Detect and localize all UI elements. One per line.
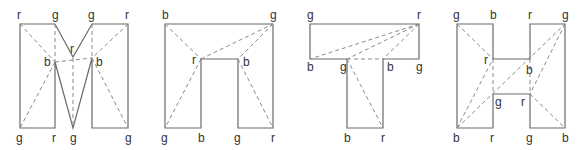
diagram-canvas: rggrrbbgrggbgrbgbgrgrbgbgbrgbrgrbgrbrgb bbox=[0, 0, 585, 150]
vertex-color-label: r bbox=[417, 8, 421, 22]
vertex-color-label: g bbox=[495, 95, 502, 109]
vertex-color-label: b bbox=[490, 8, 497, 22]
diagram-m-shape: rggrrbbgrgg bbox=[16, 8, 132, 145]
triangulation-edge bbox=[530, 94, 565, 128]
vertex-color-label: r bbox=[125, 8, 129, 22]
vertex-color-label: g bbox=[125, 131, 132, 145]
vertex-color-label: g bbox=[161, 131, 168, 145]
vertex-color-label: r bbox=[381, 131, 385, 145]
vertex-color-label: g bbox=[16, 131, 23, 145]
diagram-n-shape: bgrbgbgr bbox=[161, 8, 277, 145]
vertex-color-label: g bbox=[340, 60, 347, 74]
vertex-color-label: r bbox=[521, 95, 525, 109]
vertex-color-label: r bbox=[192, 53, 196, 67]
diagram-t-shape: grbgbgbr bbox=[307, 8, 423, 145]
triangulation-edge bbox=[165, 59, 201, 128]
vertex-color-label: g bbox=[270, 8, 277, 22]
vertex-color-label: r bbox=[17, 8, 21, 22]
vertex-color-label: g bbox=[88, 8, 95, 22]
vertex-color-label: g bbox=[526, 131, 533, 145]
vertex-color-label: b bbox=[243, 55, 250, 69]
diagram-h-shape: gbrgrbgrbrgb bbox=[453, 8, 569, 145]
triangulation-edge bbox=[383, 24, 419, 59]
vertex-color-label: r bbox=[490, 131, 494, 145]
triangulation-edge bbox=[20, 62, 55, 128]
vertex-color-label: g bbox=[307, 8, 314, 22]
vertex-color-label: g bbox=[416, 60, 423, 74]
triangulation-edge bbox=[457, 59, 493, 128]
vertex-color-label: b bbox=[162, 8, 169, 22]
vertex-color-label: g bbox=[234, 131, 241, 145]
vertex-color-label: g bbox=[70, 131, 77, 145]
triangulation-edge bbox=[238, 59, 273, 128]
triangulation-edge bbox=[347, 24, 419, 59]
vertex-color-label: b bbox=[526, 63, 533, 77]
triangulation-edge bbox=[238, 24, 273, 59]
triangulation-edge bbox=[201, 24, 273, 59]
vertex-color-label: r bbox=[52, 131, 56, 145]
vertex-color-label: r bbox=[271, 131, 275, 145]
vertex-color-label: b bbox=[562, 131, 569, 145]
triangulation-edge bbox=[347, 59, 383, 128]
vertex-color-label: b bbox=[344, 131, 351, 145]
vertex-color-label: r bbox=[70, 42, 74, 56]
vertex-color-label: b bbox=[96, 55, 103, 69]
triangulation-edge bbox=[530, 24, 565, 94]
triangulation-edge bbox=[310, 24, 419, 59]
vertex-color-label: b bbox=[307, 60, 314, 74]
vertex-color-label: b bbox=[198, 131, 205, 145]
vertex-color-label: g bbox=[562, 8, 569, 22]
triangulation-edge bbox=[92, 24, 128, 58]
vertex-color-label: g bbox=[52, 8, 59, 22]
vertex-color-label: r bbox=[484, 53, 488, 67]
vertex-color-label: g bbox=[453, 8, 460, 22]
vertex-color-label: b bbox=[387, 60, 394, 74]
vertex-color-label: b bbox=[453, 131, 460, 145]
vertex-color-label: b bbox=[44, 55, 51, 69]
vertex-color-label: r bbox=[528, 8, 532, 22]
